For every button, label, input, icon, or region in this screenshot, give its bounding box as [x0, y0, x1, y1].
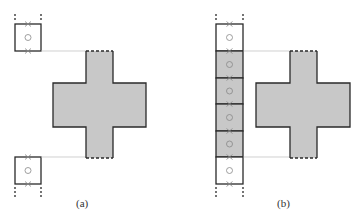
panel-label-a: (a) — [76, 197, 89, 210]
panel-a: (a) — [15, 14, 146, 210]
cell-top — [15, 14, 41, 54]
cell-column — [216, 14, 243, 197]
cell-bottom — [15, 155, 41, 198]
diagram-canvas: (a) — [0, 0, 359, 217]
panel-b: (b) — [216, 14, 350, 210]
cross-shape — [53, 51, 146, 158]
panel-label-b: (b) — [277, 197, 290, 210]
cross-shape — [256, 51, 350, 158]
